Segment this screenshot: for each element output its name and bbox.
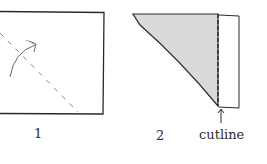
fold-line-icon: [0, 33, 78, 112]
step-2-triangle: [133, 14, 239, 123]
strip: [219, 15, 239, 108]
cutline-label: cutline: [199, 128, 244, 141]
step-2-number: 2: [156, 129, 164, 142]
step-1-sheet: [0, 12, 104, 115]
curved-arrow-icon: [10, 45, 35, 77]
shaded-triangle: [133, 14, 218, 106]
step-1-number: 1: [34, 127, 42, 140]
